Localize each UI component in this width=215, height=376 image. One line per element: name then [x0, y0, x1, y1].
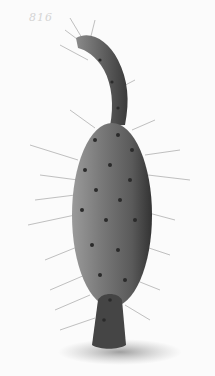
illustration-canvas: 816 [0, 0, 215, 376]
cactus-base [92, 294, 126, 349]
cactus-pad [72, 123, 152, 307]
cactus-stem [76, 35, 128, 126]
cactus-illustration [0, 0, 215, 376]
